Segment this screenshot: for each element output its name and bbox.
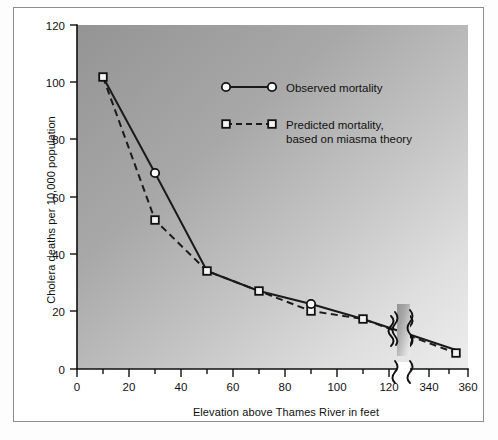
legend-label-predicted-line2: based on miasma theory — [286, 133, 412, 145]
x-tick-label: 60 — [227, 381, 240, 393]
data-point-marker — [99, 73, 107, 81]
y-axis-title: Cholera deaths per 10,000 population — [45, 110, 57, 310]
y-tick-label: 100 — [46, 77, 65, 89]
x-tick-label: 0 — [74, 381, 80, 393]
x-tick-label: 100 — [327, 381, 346, 393]
x-tick-label: 340 — [419, 381, 438, 393]
open-square-icon — [268, 120, 276, 128]
data-point-marker — [452, 349, 460, 357]
figure: 120 100 80 60 40 20 0 — [0, 0, 498, 440]
open-circle-icon — [222, 83, 230, 91]
open-square-icon — [222, 120, 230, 128]
x-tick-label: 80 — [279, 381, 292, 393]
x-axis-title: Elevation above Thames River in feet — [90, 406, 482, 418]
data-point-marker — [203, 267, 211, 275]
legend-label-observed: Observed mortality — [286, 82, 383, 94]
x-tick-label: 20 — [123, 381, 136, 393]
cholera-mortality-chart: 120 100 80 60 40 20 0 — [14, 8, 485, 423]
y-tick-label: 0 — [59, 364, 65, 376]
figure-frame: 120 100 80 60 40 20 0 — [13, 7, 484, 422]
x-tick-label: 360 — [458, 381, 477, 393]
x-axis-tick-labels: 0 20 40 60 80 100 120 340 360 — [74, 381, 478, 393]
data-point-marker — [307, 300, 315, 308]
data-point-marker — [151, 216, 159, 224]
data-point-marker — [151, 169, 159, 177]
y-tick-label: 120 — [46, 20, 65, 32]
y-axis-ticks — [70, 25, 77, 369]
open-circle-icon — [268, 83, 276, 91]
x-tick-label: 40 — [175, 381, 188, 393]
data-point-marker — [255, 287, 263, 295]
legend-label-predicted: Predicted mortality, — [286, 119, 384, 131]
data-point-marker — [359, 315, 367, 323]
